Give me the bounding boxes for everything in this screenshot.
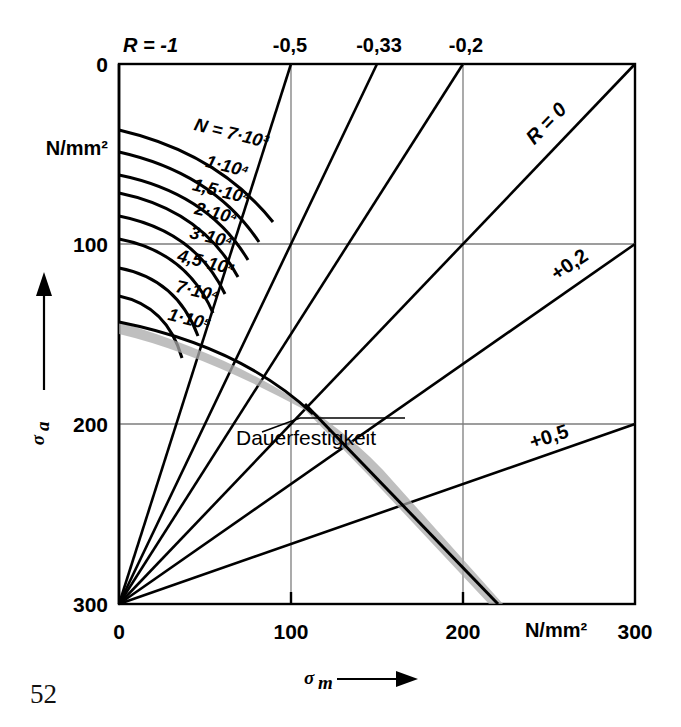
tick-marks <box>291 592 463 604</box>
n-label-7e3: N = 7·10³ <box>192 114 271 152</box>
n-label-7e4: 7·10⁴ <box>174 276 221 306</box>
y-tick-0: 300 <box>73 593 108 616</box>
r-label-minus-0-2: -0,2 <box>449 34 483 56</box>
endurance-band-shading <box>119 322 503 604</box>
y-axis-variable-group: σ a <box>27 421 53 445</box>
n-label-7e4-group: 7·10⁴ <box>174 276 221 306</box>
x-tick-100: 100 <box>273 620 308 643</box>
y-tick-300: 0 <box>96 53 108 76</box>
r-label-minus-0-5: -0,5 <box>273 34 307 56</box>
endurance-band-group <box>119 322 503 604</box>
page-number: 52 <box>30 679 57 709</box>
x-axis-arrow <box>337 671 418 687</box>
r-line-plus-0-5 <box>119 424 635 604</box>
x-tick-200: 200 <box>445 620 480 643</box>
x-tick-300: 300 <box>617 620 652 643</box>
y-tick-100: 200 <box>73 413 108 436</box>
n-label-7e3-group: N = 7·10³ <box>192 114 271 152</box>
y-tick-200: 100 <box>73 233 108 256</box>
r-label-minus-0-33: -0,33 <box>356 34 402 56</box>
r-label-minus-1: R = -1 <box>123 34 178 56</box>
x-axis-variable: σ <box>304 667 315 688</box>
x-axis-arrowhead <box>396 671 418 687</box>
x-axis-subscript: m <box>318 672 333 693</box>
x-tick-0: 0 <box>113 620 125 643</box>
n-label-3e4: 3·10⁴ <box>188 222 235 252</box>
n-label-1e5: 1·10⁵ <box>166 304 213 334</box>
x-axis-variable-group: σ m <box>304 667 333 693</box>
y-axis-arrowhead <box>36 272 52 296</box>
y-axis-variable: σ <box>27 434 48 445</box>
fatigue-diagram-figure: 0 100 200 300 N/mm² 0 100 200 300 N/mm² … <box>0 0 681 727</box>
y-axis-arrow <box>36 272 52 390</box>
y-axis-subscript: a <box>32 421 53 431</box>
endurance-annotation: Dauerfestigkeit <box>236 426 376 449</box>
y-axis-unit: N/mm² <box>46 137 109 159</box>
n-label-1e5-group: 1·10⁵ <box>166 304 213 334</box>
x-axis-unit: N/mm² <box>525 619 588 641</box>
n-label-3e4-group: 3·10⁴ <box>188 222 235 252</box>
haigh-diagram-svg: 0 100 200 300 N/mm² 0 100 200 300 N/mm² … <box>0 0 681 727</box>
